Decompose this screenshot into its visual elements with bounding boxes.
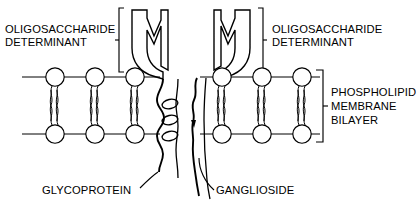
phospholipid-head [213, 125, 231, 143]
ganglioside-label: GANGLIOSIDE [216, 184, 294, 196]
membrane-label-line2: MEMBRANE [331, 100, 396, 112]
membrane-label-line3: BILAYER [331, 114, 378, 126]
oligosaccharide-right-label-line2: DETERMINANT [272, 36, 354, 48]
membrane-label-line1: PHOSPHOLIPID [331, 86, 416, 98]
phospholipid-head [126, 68, 144, 86]
phospholipid-head [253, 125, 271, 143]
phospholipid-head [46, 68, 64, 86]
oligosaccharide-left-label-line2: DETERMINANT [5, 36, 87, 48]
phospholipid-head [293, 68, 311, 86]
phospholipid-head [86, 125, 104, 143]
membrane-diagram-root: OLIGOSACCHARIDE DETERMINANT OLIGOSACCHAR… [0, 0, 420, 212]
oligosaccharide-left-label-line1: OLIGOSACCHARIDE [5, 23, 115, 35]
phospholipid-head [253, 68, 271, 86]
phospholipid-head [293, 125, 311, 143]
phospholipid-head [86, 68, 104, 86]
cell-membrane-diagram: OLIGOSACCHARIDE DETERMINANT OLIGOSACCHAR… [0, 0, 420, 212]
oligosaccharide-right-label-line1: OLIGOSACCHARIDE [272, 23, 382, 35]
glycoprotein-label: GLYCOPROTEIN [42, 184, 131, 196]
phospholipid-head [46, 125, 64, 143]
phospholipid-head [213, 68, 231, 86]
phospholipid-head [126, 125, 144, 143]
